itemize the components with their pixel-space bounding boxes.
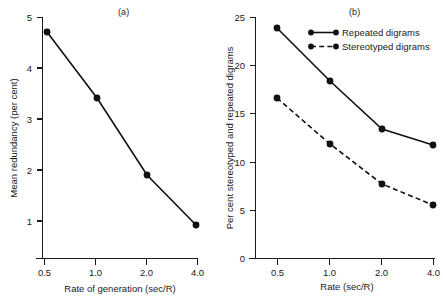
- figure-two-panel-line-charts: (a) 5 4 3 2 1: [0, 0, 443, 297]
- panel-b-x-axis-label: Rate (sec/R): [320, 281, 373, 292]
- panel-a-x-ticks: [45, 259, 198, 265]
- panel-b-ytick-15: 15: [234, 108, 245, 119]
- panel-b-stereotyped-point-2: [379, 181, 386, 188]
- panel-a-xtick-2.0: 2.0: [140, 267, 153, 278]
- panel-a-ytick-4: 4: [27, 63, 32, 74]
- panel-a-point-3: [193, 222, 200, 229]
- panel-b-xtick-4.0: 4.0: [427, 267, 440, 278]
- panel-a-ytick-3: 3: [27, 114, 32, 125]
- panel-a-series-line: [47, 32, 196, 225]
- panel-a-ytick-2: 2: [27, 165, 32, 176]
- panel-b-repeated-point-0: [274, 25, 281, 32]
- legend-label-stereotyped: Stereotyped digrams: [342, 41, 430, 52]
- panel-b-stereotyped-point-0: [274, 95, 281, 102]
- panel-b-y-axis-label: Per cent stereotyped and repeated digram…: [224, 46, 235, 229]
- panel-b-ytick-10: 10: [234, 157, 245, 168]
- legend-entry-stereotyped: Stereotyped digrams: [308, 41, 430, 52]
- legend-swatch-stereotyped-marker-right: [333, 44, 339, 50]
- panel-a-xtick-1.0: 1.0: [89, 267, 102, 278]
- panel-b-xtick-0.5: 0.5: [271, 267, 284, 278]
- panel-a-x-tick-labels: 0.5 1.0 2.0 4.0: [38, 267, 204, 278]
- panel-b-series-stereotyped-line: [277, 98, 433, 205]
- legend-swatch-stereotyped-marker-left: [308, 44, 314, 50]
- panel-a-y-axis-label: Mean redundancy (per cent): [8, 78, 19, 197]
- panel-b-x-tick-labels: 0.5 1.0 2.0 4.0: [271, 267, 440, 278]
- panel-b-y-tick-labels: 25 20 15 10 5 0: [234, 12, 245, 264]
- panel-b-ytick-0: 0: [240, 253, 245, 264]
- legend-label-repeated: Repeated digrams: [342, 27, 420, 38]
- panel-b-stereotyped-point-1: [327, 141, 334, 148]
- chart-panel-b: (b) 25 20 15 10 5 0: [222, 0, 443, 297]
- panel-a-plot: 5 4 3 2 1 0.5 1.0 2.0 4.0 Rate of genera…: [0, 0, 222, 297]
- panel-a-point-0: [44, 29, 51, 36]
- panel-b-repeated-point-3: [430, 142, 437, 149]
- panel-a-point-2: [144, 172, 151, 179]
- panel-a-xtick-0.5: 0.5: [38, 267, 51, 278]
- legend-swatch-repeated-marker-right: [333, 30, 339, 36]
- panel-b-plot: 25 20 15 10 5 0 0.5 1.0 2.0 4.0 Rat: [222, 0, 443, 297]
- legend-swatch-repeated-marker-left: [308, 30, 314, 36]
- panel-b-series-stereotyped-markers: [274, 95, 437, 209]
- panel-b-xtick-2.0: 2.0: [375, 267, 388, 278]
- panel-a-point-1: [94, 95, 101, 102]
- panel-b-title: (b): [349, 7, 360, 17]
- panel-a-x-axis-label: Rate of generation (sec/R): [64, 283, 175, 294]
- panel-a-ytick-5: 5: [27, 12, 32, 23]
- panel-a-y-ticks: [37, 18, 43, 222]
- panel-a-ytick-1: 1: [27, 216, 32, 227]
- panel-b-legend: Repeated digrams Stereotyped digrams: [308, 27, 430, 52]
- panel-b-ytick-25: 25: [234, 12, 245, 23]
- panel-b-xtick-1.0: 1.0: [323, 267, 336, 278]
- panel-b-x-ticks: [278, 259, 434, 265]
- panel-b-stereotyped-point-3: [430, 202, 437, 209]
- panel-b-repeated-point-1: [327, 78, 334, 85]
- panel-a-y-tick-labels: 5 4 3 2 1: [27, 12, 32, 227]
- chart-panel-a: (a) 5 4 3 2 1: [0, 0, 222, 297]
- panel-a-xtick-4.0: 4.0: [191, 267, 204, 278]
- legend-entry-repeated: Repeated digrams: [308, 27, 420, 38]
- panel-a-title: (a): [118, 7, 129, 17]
- panel-b-repeated-point-2: [379, 126, 386, 133]
- panel-b-ytick-5: 5: [240, 205, 245, 216]
- panel-b-y-ticks: [250, 18, 256, 259]
- panel-b-ytick-20: 20: [234, 60, 245, 71]
